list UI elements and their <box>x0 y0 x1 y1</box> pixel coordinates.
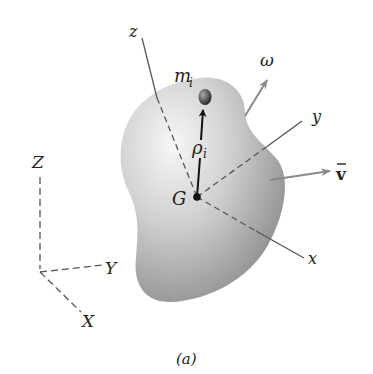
label-omega: ω <box>260 50 274 70</box>
figure-caption: (a) <box>176 350 197 368</box>
label-z: z <box>128 22 138 41</box>
y-axis-solid <box>265 121 302 148</box>
label-rho: ρ <box>191 137 203 158</box>
label-y: y <box>311 107 322 126</box>
particle-mi <box>199 89 212 105</box>
z-axis-solid <box>142 38 157 98</box>
omega-arrow <box>245 80 267 116</box>
label-Y: Y <box>105 258 118 278</box>
label-X: X <box>80 311 95 331</box>
label-x: x <box>308 249 317 268</box>
label-Z: Z <box>31 152 45 172</box>
X-fixed-axis <box>40 272 81 312</box>
center-of-mass-dot <box>193 193 201 201</box>
label-G: G <box>172 188 186 209</box>
label-v: v <box>335 164 347 184</box>
label-rho-subscript: i <box>203 147 207 161</box>
Y-fixed-axis <box>40 265 103 272</box>
rigid-body-diagram: G m i ρ i z y x ω v Z Y X (a) <box>0 0 373 374</box>
label-m-subscript: i <box>189 76 193 90</box>
